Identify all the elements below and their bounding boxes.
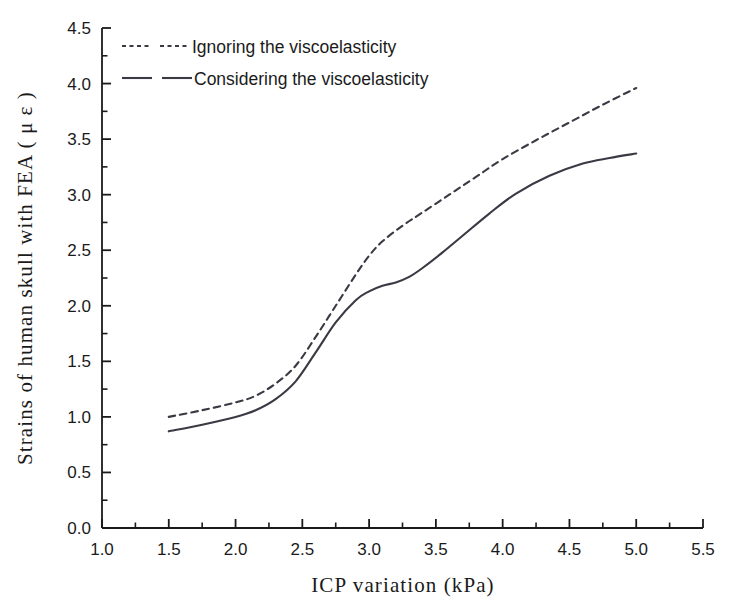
x-tick-label: 3.0 xyxy=(357,540,381,559)
y-tick-label: 4.5 xyxy=(67,19,91,38)
x-tick-label: 5.5 xyxy=(691,540,715,559)
legend-label-considering: Considering the viscoelasticity xyxy=(194,69,429,89)
x-tick-label: 2.0 xyxy=(224,540,248,559)
y-tick-label: 2.5 xyxy=(67,241,91,260)
y-tick-label: 1.5 xyxy=(67,352,91,371)
x-tick-label: 4.5 xyxy=(558,540,582,559)
y-tick-label: 0.0 xyxy=(67,519,91,538)
x-tick-label: 4.0 xyxy=(491,540,515,559)
y-tick-label: 3.0 xyxy=(67,186,91,205)
y-tick-label: 2.0 xyxy=(67,297,91,316)
chart-figure: 1.01.52.02.53.03.54.04.55.05.5 0.00.51.0… xyxy=(0,0,733,611)
x-tick-label: 3.5 xyxy=(424,540,448,559)
y-axis-title: Strains of human skull with FEA ( μ ε ) xyxy=(13,91,37,465)
y-tick-label: 3.5 xyxy=(67,130,91,149)
x-tick-label: 5.0 xyxy=(624,540,648,559)
y-tick-label: 0.5 xyxy=(67,463,91,482)
x-tick-label: 1.0 xyxy=(90,540,114,559)
line-chart-svg: 1.01.52.02.53.03.54.04.55.05.5 0.00.51.0… xyxy=(0,0,733,611)
legend-label-ignoring: Ignoring the viscoelasticity xyxy=(192,37,397,57)
x-tick-label: 1.5 xyxy=(157,540,181,559)
y-tick-label: 1.0 xyxy=(67,408,91,427)
y-tick-label: 4.0 xyxy=(67,75,91,94)
x-axis-title: ICP variation (kPa) xyxy=(311,573,494,597)
x-tick-label: 2.5 xyxy=(291,540,315,559)
